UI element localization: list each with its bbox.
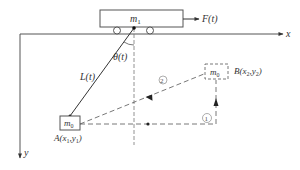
angle-label: θ(t) xyxy=(113,51,128,63)
angle-arc xyxy=(124,42,134,45)
rope-length-label: L(t) xyxy=(79,71,96,83)
cart: m1 xyxy=(100,10,183,34)
force-label: F(t) xyxy=(201,13,218,25)
x-axis-label: x xyxy=(285,28,291,39)
path-1: 1 xyxy=(80,80,219,126)
wheel-left-icon xyxy=(114,27,121,34)
force-arrow: F(t) xyxy=(183,13,218,25)
pivot-dot-icon xyxy=(132,26,136,30)
y-axis-label: y xyxy=(23,147,29,158)
path-2-label: 2 xyxy=(160,77,164,85)
wheel-right-icon xyxy=(147,27,154,34)
payload-start: m0 A(x1,y1) xyxy=(53,116,82,144)
y-axis: y xyxy=(20,34,29,158)
path-2: 2 xyxy=(80,74,204,124)
x-axis: x xyxy=(20,28,291,39)
payload-end: m0 B(x2,y2) xyxy=(205,64,262,79)
point-a-label: A(x1,y1) xyxy=(53,133,82,144)
point-b-label: B(x2,y2) xyxy=(234,66,262,77)
path-1-label: 1 xyxy=(205,115,209,123)
crane-diagram: x y m1 F(t) L(t) θ(t) m0 A(x1,y1) 2 xyxy=(0,0,300,170)
